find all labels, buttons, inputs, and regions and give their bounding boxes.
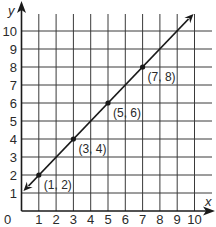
y-tick-label: 9 xyxy=(10,42,17,57)
x-tick-label: 9 xyxy=(174,212,181,227)
coordinate-plane-chart: yx01234567891012345678910 (1, 2)(3, 4)(5… xyxy=(0,0,216,227)
y-tick-label: 2 xyxy=(10,168,17,183)
y-tick-label: 1 xyxy=(10,186,17,201)
x-tick-label: 7 xyxy=(139,212,146,227)
x-tick-label: 6 xyxy=(122,212,129,227)
x-tick-label: 8 xyxy=(156,212,163,227)
y-tick-label: 7 xyxy=(10,78,17,93)
point-labels: (1, 2)(3, 4)(5, 6)(7, 8) xyxy=(44,70,176,192)
y-tick-label: 6 xyxy=(10,96,17,111)
point-label: (3, 4) xyxy=(78,142,106,156)
x-tick-label: 4 xyxy=(87,212,94,227)
data-point xyxy=(36,172,41,177)
y-tick-label: 4 xyxy=(10,132,17,147)
x-tick-label: 3 xyxy=(70,212,77,227)
y-tick-label: 5 xyxy=(10,114,17,129)
y-tick-label: 3 xyxy=(10,150,17,165)
data-point xyxy=(105,100,110,105)
x-tick-label: 1 xyxy=(35,212,42,227)
point-label: (1, 2) xyxy=(44,178,72,192)
y-tick-label: 10 xyxy=(3,24,17,39)
x-tick-label: 10 xyxy=(187,212,201,227)
y-axis-label: y xyxy=(7,3,16,18)
origin-label: 0 xyxy=(4,212,11,227)
x-tick-label: 2 xyxy=(52,212,59,227)
y-tick-label: 8 xyxy=(10,60,17,75)
x-axis-label: x xyxy=(204,194,212,209)
x-tick-label: 5 xyxy=(104,212,111,227)
point-label: (5, 6) xyxy=(113,106,141,120)
point-label: (7, 8) xyxy=(148,70,176,84)
data-point xyxy=(140,64,145,69)
data-point xyxy=(71,136,76,141)
